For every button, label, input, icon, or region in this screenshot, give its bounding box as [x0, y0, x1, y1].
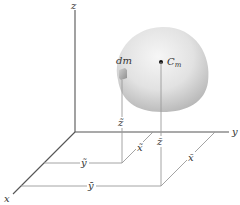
- dm-y-label: ỹ: [80, 157, 87, 168]
- cm-y-label: ȳ: [87, 180, 94, 191]
- center-of-mass-diagram: z y x dm Cm z̃ ỹ x̃ z̄ ȳ x̄: [0, 0, 240, 205]
- x-axis-label: x: [4, 193, 10, 204]
- mass-element-cube: [119, 68, 127, 80]
- dm-x-label: x̃: [137, 142, 143, 153]
- dm-label: dm: [116, 55, 132, 66]
- y-axis-label: y: [231, 126, 238, 137]
- cm-z-label: z̄: [156, 136, 163, 147]
- z-axis-label: z: [70, 0, 77, 11]
- dm-z-label: z̃: [117, 117, 124, 128]
- rigid-body: [117, 27, 209, 112]
- cm-x-label: x̄: [188, 152, 194, 163]
